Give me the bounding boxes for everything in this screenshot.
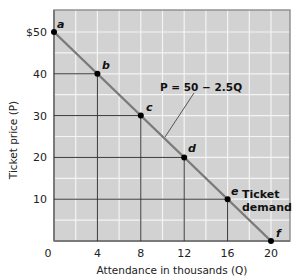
point-label-b: b [102, 59, 110, 72]
x-tick-8: 8 [137, 247, 144, 260]
demand-chart: a b c d e f P = 50 − 2.5Q Ticket demand … [0, 0, 303, 280]
x-axis-title: Attendance in thousands (Q) [97, 264, 248, 276]
point-label-d: d [188, 142, 196, 155]
y-axis-title: Ticket price (P) [7, 101, 19, 180]
y-tick-20: 20 [33, 151, 47, 164]
point-label-a: a [57, 18, 64, 31]
point-label-e: e [231, 185, 239, 198]
point-e [225, 196, 231, 202]
curve-label-demand: demand [242, 201, 292, 214]
y-tick-40: 40 [33, 68, 47, 81]
point-d [181, 154, 187, 160]
x-tick-16: 16 [221, 247, 235, 260]
curve-label-ticket: Ticket [242, 188, 280, 201]
point-f [268, 238, 274, 244]
demand-equation: P = 50 − 2.5Q [160, 81, 242, 93]
x-tick-12: 12 [177, 247, 191, 260]
y-tick-30: 30 [33, 110, 47, 123]
x-tick-4: 4 [94, 247, 101, 260]
origin-label: 0 [45, 247, 52, 260]
point-b [94, 71, 100, 77]
x-tick-20: 20 [264, 247, 278, 260]
y-tick-10: 10 [33, 193, 47, 206]
y-tick-50: $50 [26, 26, 47, 39]
point-c [138, 113, 144, 119]
point-label-c: c [146, 101, 153, 114]
